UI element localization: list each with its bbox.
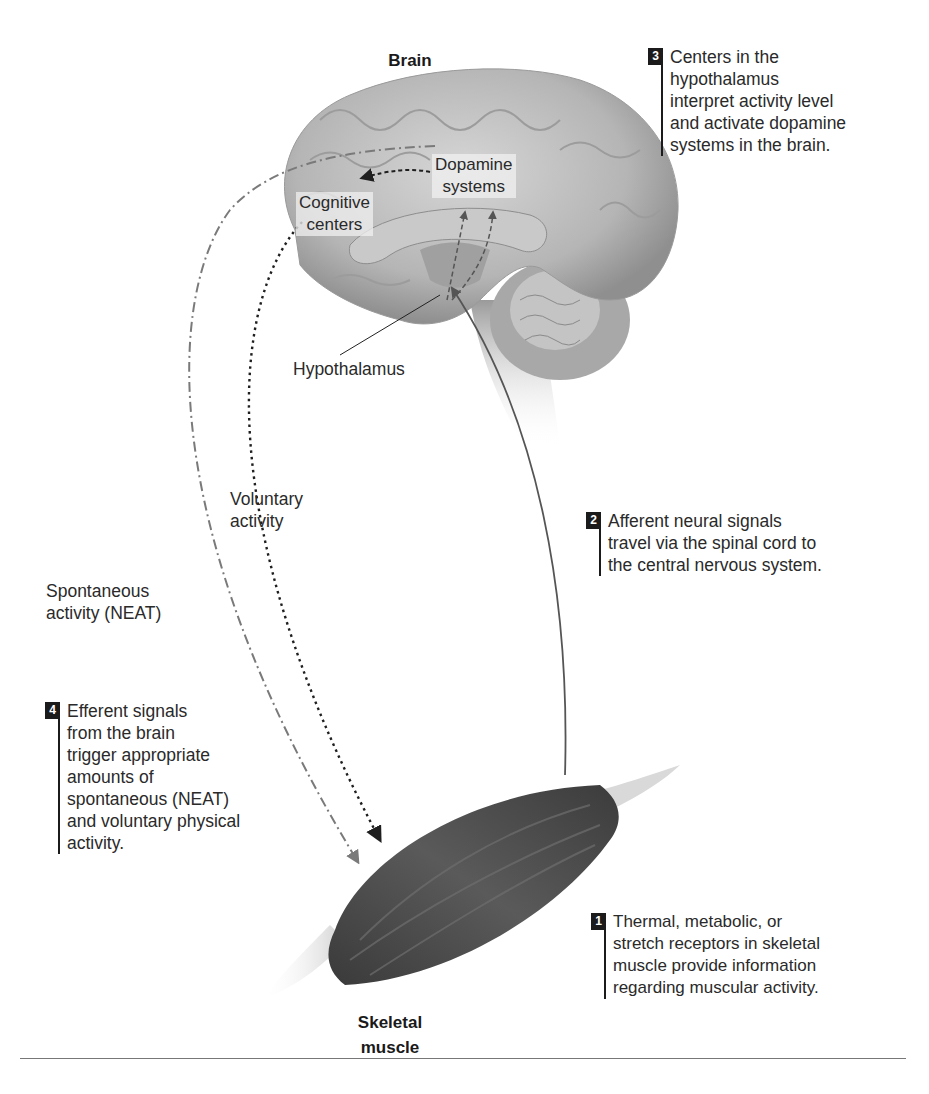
step-1-text: Thermal, metabolic, or stretch receptors… — [613, 911, 820, 999]
hypothalamus-label: Hypothalamus — [293, 358, 405, 380]
footer-divider — [20, 1058, 906, 1059]
brain-title: Brain — [370, 50, 450, 72]
hypothalamus-leader-line — [330, 290, 450, 360]
step-4-text: Efferent signals from the brain trigger … — [67, 700, 240, 854]
step-2-text: Afferent neural signals travel via the s… — [608, 510, 822, 576]
dopamine-systems-label: Dopamine systems — [432, 154, 516, 198]
step-2: 2 Afferent neural signals travel via the… — [586, 510, 822, 576]
step-4: 4 Efferent signals from the brain trigge… — [45, 700, 240, 854]
step-3: 3 Centers in the hypothalamus interpret … — [648, 46, 846, 156]
step-3-text: Centers in the hypothalamus interpret ac… — [670, 46, 846, 156]
voluntary-activity-label: Voluntary activity — [230, 488, 303, 532]
cognitive-centers-label: Cognitive centers — [296, 192, 373, 236]
spontaneous-activity-label: Spontaneous activity (NEAT) — [46, 580, 161, 624]
skeletal-muscle-title: Skeletal muscle — [340, 1010, 440, 1060]
step-1: 1 Thermal, metabolic, or stretch recepto… — [591, 911, 820, 999]
